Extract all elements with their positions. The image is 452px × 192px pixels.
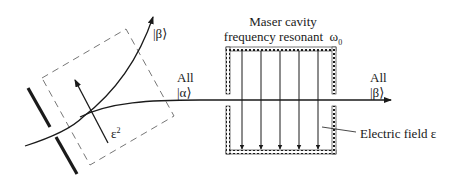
all-beta-state-text: |β⟩ <box>370 85 387 100</box>
cavity-title: Maser cavity frequency resonant ω0 <box>224 14 342 50</box>
beta-state-text: |β⟩ <box>153 26 167 41</box>
all-alpha-all-text: All <box>177 70 194 85</box>
efield-leader-line <box>322 127 356 132</box>
beta-state-label: |β⟩ <box>153 27 167 40</box>
electric-field-label: Electric field ε <box>360 127 436 140</box>
cavity-title-line1: Maser cavity <box>224 14 342 29</box>
eps-squared-label: ε2 <box>111 127 120 140</box>
beam-alpha-main <box>80 100 391 117</box>
electric-field-text: Electric field ε <box>360 126 436 141</box>
all-beta-label: All |β⟩ <box>370 70 387 100</box>
slit-plates <box>28 88 77 174</box>
all-alpha-label: All |α⟩ <box>177 70 194 100</box>
cavity-title-line2-text: frequency resonant <box>224 29 323 44</box>
omega-subscript: 0 <box>338 38 342 47</box>
eps-sup-text: 2 <box>116 126 120 135</box>
cavity-title-line2: frequency resonant ω0 <box>224 29 342 50</box>
all-alpha-state-text: |α⟩ <box>177 85 194 100</box>
all-beta-all-text: All <box>370 70 387 85</box>
